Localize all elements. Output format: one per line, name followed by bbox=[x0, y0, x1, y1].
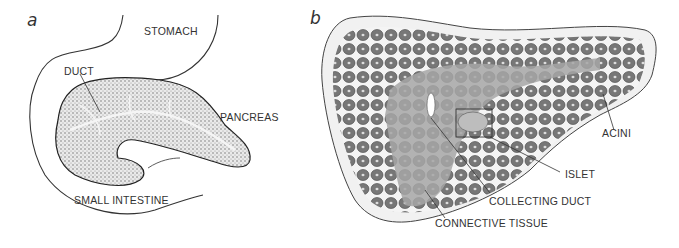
panel-letter-b: b bbox=[310, 8, 321, 28]
label-duct: DUCT bbox=[64, 65, 94, 77]
label-islet: ISLET bbox=[565, 168, 595, 180]
collecting-duct-lumen bbox=[427, 93, 435, 117]
label-collecting-duct: COLLECTING DUCT bbox=[489, 195, 591, 207]
pancreas-section-illustration bbox=[300, 0, 679, 248]
pancreas-shape bbox=[56, 78, 250, 186]
label-stomach: STOMACH bbox=[144, 25, 198, 37]
panel-b-pancreas-histology: b ACINI ISLET COLLECTING DUCT CONNECTIVE… bbox=[300, 0, 679, 248]
panel-a-pancreas-gross: a STOMACH DUCT PANCREAS SMALL INTESTINE bbox=[0, 0, 300, 248]
label-small-intestine: SMALL INTESTINE bbox=[74, 194, 169, 206]
acini-region bbox=[333, 27, 645, 212]
panel-letter-a: a bbox=[27, 10, 37, 30]
label-acini: ACINI bbox=[602, 127, 631, 139]
islet bbox=[458, 112, 488, 132]
pancreas-gross-illustration bbox=[0, 0, 300, 248]
label-connective-tissue: CONNECTIVE TISSUE bbox=[435, 217, 548, 229]
label-pancreas: PANCREAS bbox=[220, 111, 279, 123]
